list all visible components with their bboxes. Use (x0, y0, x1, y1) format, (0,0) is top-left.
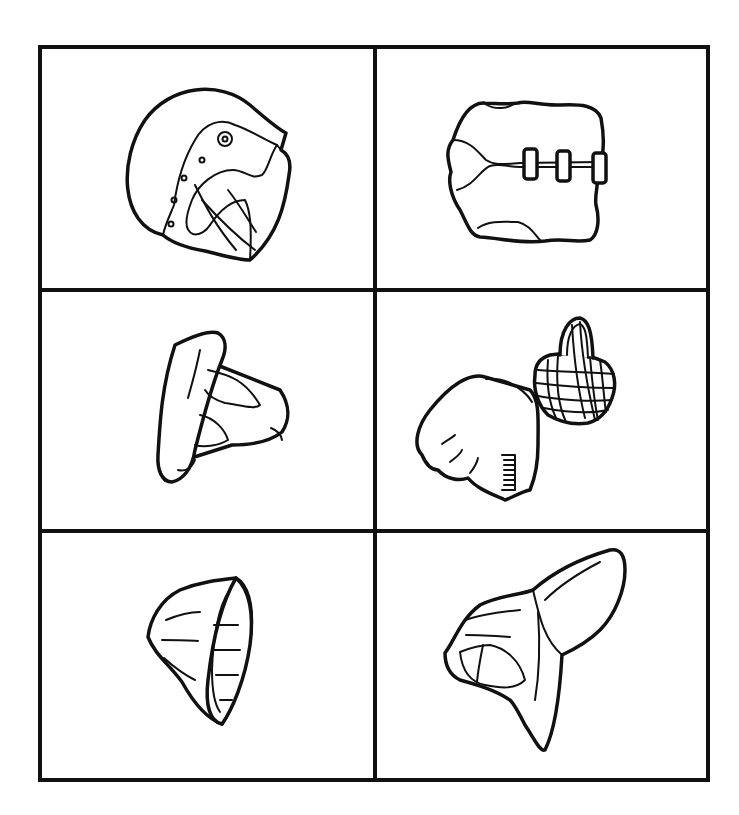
shin-guard-icon (445, 550, 625, 751)
muzzle-icon (535, 318, 615, 424)
helmet-icon (127, 89, 290, 260)
glove-icon (417, 376, 538, 500)
shoulder-pad-icon (158, 332, 288, 482)
illustration-grid (0, 0, 739, 815)
cup-guard-icon (148, 578, 251, 724)
life-vest-icon (448, 102, 606, 242)
